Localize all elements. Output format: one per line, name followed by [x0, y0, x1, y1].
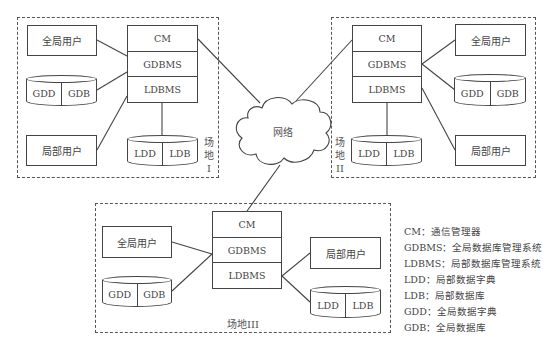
legend: CM：通信管理器 GDBMS：全局数据库管理系统 LDBMS：局部数据库管理系统… [404, 224, 542, 336]
legend-item-gdb: GDB：全局数据库 [404, 320, 542, 336]
site-3-gdbms[interactable]: GDBMS [213, 238, 281, 264]
site-2-local-user[interactable]: 局部用户 [455, 135, 526, 166]
site-3-ldd: LDD [311, 290, 346, 317]
site-1-local-db[interactable]: LDD LDB [127, 135, 198, 166]
site-2-global-user[interactable]: 全局用户 [455, 24, 526, 56]
network-label: 网络 [273, 124, 293, 139]
site-3-global-user[interactable]: 全局用户 [102, 226, 172, 258]
site-2-local-db[interactable]: LDD LDB [351, 135, 422, 166]
legend-item-cm: CM：通信管理器 [404, 224, 542, 240]
site-2-global-db[interactable]: GDD GDB [454, 74, 526, 106]
site-1-gdbms[interactable]: GDBMS [128, 52, 197, 78]
site-1-global-user[interactable]: 全局用户 [27, 25, 97, 56]
site-2-gdbms[interactable]: GDBMS [353, 52, 421, 78]
site-2-cm[interactable]: CM [353, 26, 421, 52]
cylinder-top-icon [351, 135, 422, 143]
site-1-label: 场 地 I [203, 136, 215, 175]
site-2-label: 场 地 II [334, 136, 346, 175]
site-3-cm[interactable]: CM [213, 212, 281, 238]
site-3-local-user[interactable]: 局部用户 [310, 237, 381, 269]
site-1-cm[interactable]: CM [128, 26, 197, 52]
legend-item-ldd: LDD：局部数据字典 [404, 272, 542, 288]
legend-item-gdbms: GDBMS：全局数据库管理系统 [404, 240, 542, 256]
legend-item-ldbms: LDBMS：局部数据库管理系统 [404, 256, 542, 272]
site-3-dbms-stack: CM GDBMS LDBMS [212, 211, 282, 289]
legend-item-gdd: GDD：全局数据字典 [404, 304, 542, 320]
cylinder-top-icon [26, 75, 97, 83]
legend-item-ldb: LDB：局部数据库 [404, 288, 542, 304]
cylinder-top-icon [454, 74, 526, 82]
site-1-dbms-stack: CM GDBMS LDBMS [127, 25, 198, 103]
site-3-ldb: LDB [346, 290, 380, 317]
cylinder-top-icon [310, 286, 381, 294]
site-2-ldbms[interactable]: LDBMS [353, 77, 421, 102]
cylinder-top-icon [127, 135, 198, 143]
site-2-gdb: GDB [491, 78, 526, 105]
site-3-global-db[interactable]: GDD GDB [102, 276, 172, 307]
site-2-gdd: GDD [455, 78, 491, 105]
site-1-local-user[interactable]: 局部用户 [26, 135, 97, 166]
site-3-local-db[interactable]: LDD LDB [310, 286, 381, 318]
cylinder-top-icon [102, 276, 172, 284]
site-3-label: 场地III [227, 316, 259, 331]
site-3-ldbms[interactable]: LDBMS [213, 263, 281, 288]
site-2-dbms-stack: CM GDBMS LDBMS [352, 25, 422, 103]
site-1-ldbms[interactable]: LDBMS [128, 77, 197, 102]
site-1-global-db[interactable]: GDD GDB [26, 75, 97, 106]
